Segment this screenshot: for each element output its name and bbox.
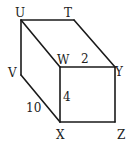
vertex-label-V: V <box>7 66 17 80</box>
rectangular-prism-diagram: U T W Y V X Z 2 4 10 <box>0 0 132 145</box>
vertex-label-T: T <box>64 6 72 20</box>
vertex-label-X: X <box>56 128 65 142</box>
measurement-WX: 4 <box>63 90 71 104</box>
vertex-label-U: U <box>15 6 25 20</box>
measurement-VX: 10 <box>26 101 41 115</box>
vertex-label-Y: Y <box>114 65 124 79</box>
edge-UW <box>21 20 60 67</box>
vertex-label-Z: Z <box>117 128 125 142</box>
measurement-WY: 2 <box>81 52 89 66</box>
vertex-label-W: W <box>57 53 70 67</box>
